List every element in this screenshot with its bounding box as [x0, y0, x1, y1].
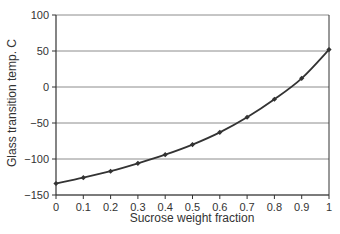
data-point-marker — [163, 152, 168, 157]
axes — [52, 15, 329, 199]
y-tick-label: 0 — [43, 81, 49, 93]
data-series — [53, 47, 331, 186]
data-point-marker — [81, 175, 86, 180]
y-tick-label: −150 — [24, 189, 49, 201]
data-point-marker — [108, 169, 113, 174]
y-tick-labels: 100500−50−100−150 — [24, 9, 49, 201]
x-tick-label: 0.2 — [103, 201, 118, 213]
gridlines — [56, 15, 329, 195]
data-point-marker — [190, 142, 195, 147]
series-line — [56, 50, 329, 184]
data-point-marker — [135, 161, 140, 166]
y-tick-label: 50 — [37, 45, 49, 57]
x-tick-label: 0 — [53, 201, 59, 213]
x-tick-label: 1 — [326, 201, 332, 213]
x-tick-label: 0.9 — [294, 201, 309, 213]
x-tick-label: 0.1 — [76, 201, 91, 213]
y-axis-title: Glass transition temp. C — [5, 39, 19, 167]
x-tick-label: 0.8 — [267, 201, 282, 213]
y-tick-label: 100 — [31, 9, 49, 21]
x-axis-title: Sucrose weight fraction — [130, 211, 255, 225]
data-point-marker — [53, 181, 58, 186]
y-tick-label: −100 — [24, 153, 49, 165]
y-tick-label: −50 — [30, 117, 49, 129]
chart: 100500−50−100−150 00.10.20.30.40.50.60.7… — [0, 0, 340, 234]
